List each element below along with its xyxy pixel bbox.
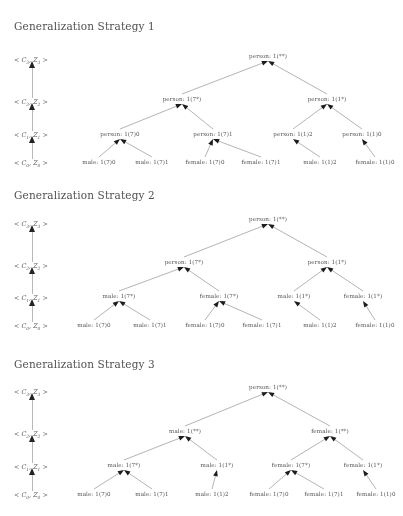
tree-node: female: 1(1)0 xyxy=(355,322,394,328)
tree-edge xyxy=(298,142,320,157)
tree-edge xyxy=(294,270,323,291)
tree-edge xyxy=(186,107,213,129)
tree-node: person: 1(1)2 xyxy=(273,131,312,137)
tree-node: female: 1(7)0 xyxy=(185,159,224,165)
edge-arrowhead-icon xyxy=(362,139,368,145)
edge-arrowhead-icon xyxy=(182,104,188,110)
edge-arrowhead-icon xyxy=(213,139,220,143)
tree-edge xyxy=(125,142,152,157)
edge-arrowhead-icon xyxy=(175,104,182,109)
tree-edge xyxy=(298,304,320,320)
edge-arrowhead-icon xyxy=(117,470,124,475)
tree-node: person: 1(**) xyxy=(249,216,287,222)
edge-arrowhead-icon xyxy=(261,61,268,65)
strategy-3-tree: person: 1(**)male: 1(**)female: 1(**)mal… xyxy=(0,350,403,516)
tree-edge xyxy=(296,473,324,489)
tree-edge xyxy=(189,439,217,460)
tree-node: male: 1(1)2 xyxy=(303,322,337,328)
tree-node: male: 1(7)0 xyxy=(77,491,111,497)
tree-node: female: 1(7)1 xyxy=(241,159,280,165)
tree-edge xyxy=(291,439,325,460)
edge-arrowhead-icon xyxy=(119,301,126,306)
edge-arrowhead-icon xyxy=(291,470,298,475)
edge-arrowhead-icon xyxy=(120,139,127,144)
tree-node: female: 1(7*) xyxy=(200,293,238,299)
tree-edge xyxy=(218,141,261,157)
tree-node: male: 1(1*) xyxy=(201,462,234,468)
tree-node: person: 1(**) xyxy=(249,53,287,59)
tree-node: person: 1(7*) xyxy=(165,259,204,265)
edge-arrowhead-icon xyxy=(185,436,191,442)
tree-node: female: 1(7)0 xyxy=(249,491,288,497)
edge-arrowhead-icon xyxy=(327,104,333,110)
edge-arrowhead-icon xyxy=(363,470,368,476)
tree-node: person: 1(1*) xyxy=(308,259,347,265)
edge-arrowhead-icon xyxy=(327,267,333,272)
tree-edge xyxy=(182,63,263,94)
tree-edge xyxy=(120,106,177,129)
tree-edge xyxy=(334,439,363,460)
tree-node: male: 1(**) xyxy=(169,428,201,434)
tree-edge xyxy=(99,143,116,157)
strategy-panel-1: Generalization Strategy 1 < C3, Z3 >< C2… xyxy=(0,0,403,178)
tree-edge xyxy=(365,143,375,157)
tree-edge xyxy=(184,226,263,257)
tree-node: male: 1(1)2 xyxy=(303,159,337,165)
edge-arrowhead-icon xyxy=(268,61,275,66)
tree-edge xyxy=(185,394,263,426)
tree-node: female: 1(1*) xyxy=(344,462,382,468)
edge-arrowhead-icon xyxy=(124,470,130,475)
tree-edge xyxy=(273,395,330,426)
tree-node: male: 1(1*) xyxy=(278,293,311,299)
tree-node: person: 1(**) xyxy=(249,384,287,390)
edge-arrowhead-icon xyxy=(261,224,268,229)
tree-edge xyxy=(205,144,211,157)
tree-node: female: 1(7)0 xyxy=(185,322,224,328)
strategy-1-tree: person: 1(**)person: 1(7*)person: 1(1*)p… xyxy=(0,0,403,178)
edge-arrowhead-icon xyxy=(293,139,299,144)
tree-node: female: 1(**) xyxy=(311,428,349,434)
edge-arrowhead-icon xyxy=(184,267,190,272)
tree-edge xyxy=(94,304,115,320)
tree-node: person: 1(7)0 xyxy=(100,131,139,137)
edge-arrowhead-icon xyxy=(213,470,218,477)
strategy-panel-3: Generalization Strategy 3 < C3, Z3 >< C2… xyxy=(0,350,403,516)
tree-node: male: 1(7)0 xyxy=(82,159,116,165)
tree-edge xyxy=(331,107,362,129)
tree-edge xyxy=(205,305,216,320)
tree-edge xyxy=(189,270,219,291)
tree-node: female: 1(7)1 xyxy=(242,322,281,328)
edge-arrowhead-icon xyxy=(321,104,327,110)
tree-edge xyxy=(332,270,363,291)
strategy-panel-2: Generalization Strategy 2 < C3, Z3 >< C2… xyxy=(0,178,403,350)
strategy-2-tree: person: 1(**)person: 1(7*)person: 1(1*)m… xyxy=(0,178,403,350)
tree-edge xyxy=(273,64,327,94)
tree-edge xyxy=(94,473,119,489)
tree-edge xyxy=(124,304,150,320)
edge-arrowhead-icon xyxy=(330,436,336,442)
edge-arrowhead-icon xyxy=(363,301,368,308)
tree-node: male: 1(7*) xyxy=(108,462,141,468)
tree-node: male: 1(7)1 xyxy=(135,491,169,497)
tree-node: female: 1(1*) xyxy=(344,293,382,299)
tree-node: male: 1(7)0 xyxy=(77,322,111,328)
edge-arrowhead-icon xyxy=(321,267,327,273)
edge-arrowhead-icon xyxy=(323,436,330,441)
tree-edge xyxy=(269,474,287,489)
tree-edge xyxy=(366,306,375,320)
tree-node: female: 1(7*) xyxy=(272,462,310,468)
tree-edge xyxy=(293,107,323,129)
tree-node: person: 1(7*) xyxy=(163,96,202,102)
edge-arrowhead-icon xyxy=(261,392,268,397)
tree-edges xyxy=(0,0,403,178)
edge-arrowhead-icon xyxy=(177,267,184,272)
edge-arrowhead-icon xyxy=(178,436,185,441)
tree-edge xyxy=(366,475,376,489)
tree-node: person: 1(7)1 xyxy=(193,131,232,137)
tree-node: male: 1(7)1 xyxy=(135,159,169,165)
tree-node: female: 1(7)1 xyxy=(304,491,343,497)
tree-node: male: 1(1)2 xyxy=(195,491,229,497)
tree-edge xyxy=(212,475,216,489)
tree-edge xyxy=(119,269,179,291)
edge-arrowhead-icon xyxy=(208,139,213,146)
